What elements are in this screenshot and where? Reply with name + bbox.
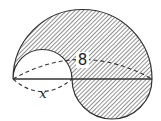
- label-x: x: [39, 86, 47, 101]
- label-8: 8: [78, 51, 88, 69]
- geometry-figure: 8 x: [0, 0, 161, 121]
